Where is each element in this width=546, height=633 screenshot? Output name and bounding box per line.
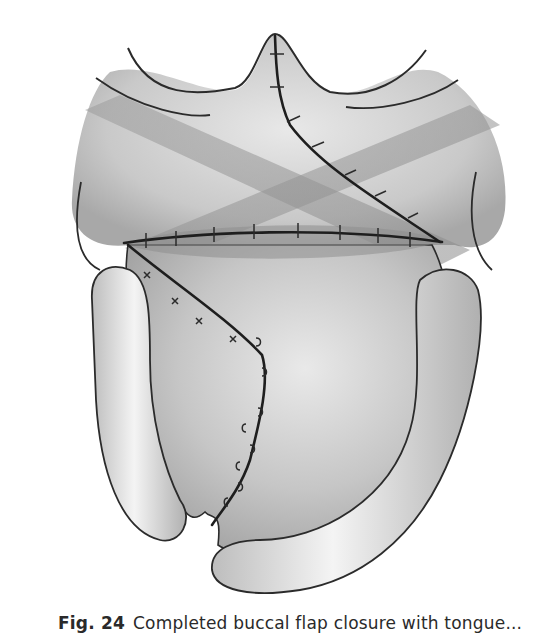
caption-text: Completed buccal flap closure with tongu… [133,613,522,633]
figure-caption: Fig. 24Completed buccal flap closure wit… [58,613,538,633]
surgical-illustration [0,0,546,610]
flap-closure-drawing [0,0,546,610]
figure-label: Fig. 24 [58,613,125,633]
